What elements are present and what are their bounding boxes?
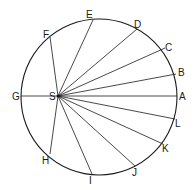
- point-label-i: I: [89, 175, 92, 186]
- point-label-l: L: [175, 118, 181, 129]
- line-s-c: [58, 48, 165, 96]
- point-label-e: E: [86, 9, 93, 20]
- focus-label-s: S: [49, 91, 56, 102]
- line-s-b: [58, 74, 176, 96]
- point-label-f: F: [43, 29, 49, 40]
- point-label-d: D: [134, 19, 141, 30]
- line-s-h: [50, 96, 58, 154]
- point-labels: ABCDEFGHIJKL: [12, 9, 186, 186]
- point-label-k: K: [162, 143, 169, 154]
- point-label-g: G: [12, 91, 20, 102]
- focus-point: [57, 95, 60, 98]
- point-label-a: A: [179, 91, 186, 102]
- ellipse-diagram: ABCDEFGHIJKL S: [0, 0, 195, 190]
- line-s-f: [50, 37, 58, 96]
- line-s-l: [58, 96, 175, 119]
- line-s-j: [58, 96, 135, 166]
- line-s-k: [58, 96, 163, 144]
- point-label-c: C: [165, 42, 172, 53]
- orbit-circle: [21, 19, 177, 175]
- line-s-d: [58, 29, 137, 96]
- line-s-i: [58, 96, 92, 174]
- line-s-e: [58, 20, 93, 96]
- radius-lines: [21, 20, 177, 174]
- point-label-b: B: [178, 67, 185, 78]
- point-label-h: H: [42, 155, 49, 166]
- point-label-j: J: [132, 167, 137, 178]
